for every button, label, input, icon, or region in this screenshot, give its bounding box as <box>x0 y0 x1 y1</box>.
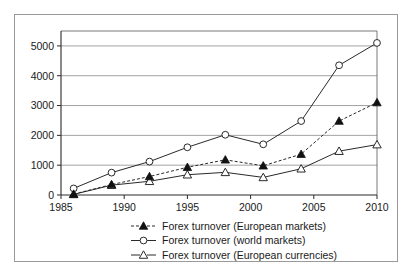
legend-marker-1 <box>140 237 147 244</box>
y-tick-label-3000: 3000 <box>31 99 55 111</box>
legend-label-0: Forex turnover (European markets) <box>162 220 326 232</box>
legend-label-2: Forex turnover (European currencies) <box>162 249 337 261</box>
data-point-1-7 <box>336 62 343 69</box>
legend-entry-2: Forex turnover (European currencies) <box>131 249 337 261</box>
chart-legend: Forex turnover (European markets)Forex t… <box>131 220 337 261</box>
x-tick-label-2005: 2005 <box>302 201 326 213</box>
y-tick-label-4000: 4000 <box>31 70 55 82</box>
x-tick-label-2010: 2010 <box>365 201 389 213</box>
legend-entry-1: Forex turnover (world markets) <box>131 234 306 246</box>
data-point-1-2 <box>146 158 153 165</box>
x-tick-label-2000: 2000 <box>239 201 263 213</box>
y-tick-label-0: 0 <box>48 189 54 201</box>
data-point-0-3 <box>183 163 191 170</box>
data-point-2-4 <box>221 168 229 175</box>
legend-marker-2 <box>139 251 147 258</box>
series-line-1 <box>74 43 377 189</box>
data-point-1-5 <box>260 141 267 148</box>
series-line-0 <box>74 103 377 195</box>
data-point-0-8 <box>373 98 381 105</box>
legend-marker-0 <box>139 222 147 229</box>
data-point-2-8 <box>373 140 381 147</box>
y-axis-ticks: 010002000300040005000 <box>31 40 61 201</box>
x-tick-label-1995: 1995 <box>176 201 200 213</box>
data-point-2-6 <box>297 165 305 172</box>
chart-figure: 010002000300040005000 198519901995200020… <box>0 0 414 278</box>
data-point-1-1 <box>108 169 115 176</box>
x-tick-label-1985: 1985 <box>49 201 73 213</box>
data-point-1-6 <box>298 118 305 125</box>
y-tick-label-5000: 5000 <box>31 40 55 52</box>
series-2 <box>69 140 381 197</box>
legend-entry-0: Forex turnover (European markets) <box>131 220 326 232</box>
series-0 <box>69 98 381 197</box>
data-point-0-4 <box>221 156 229 163</box>
data-point-0-7 <box>335 117 343 124</box>
data-point-1-4 <box>222 131 229 138</box>
y-tick-label-2000: 2000 <box>31 129 55 141</box>
x-tick-label-1990: 1990 <box>113 201 137 213</box>
y-tick-label-1000: 1000 <box>31 159 55 171</box>
x-axis-ticks: 198519901995200020052010 <box>49 195 389 213</box>
line-chart: 010002000300040005000 198519901995200020… <box>0 0 414 278</box>
data-point-1-8 <box>374 40 381 47</box>
data-point-1-3 <box>184 144 191 151</box>
data-series <box>69 40 381 198</box>
gridlines <box>61 46 377 165</box>
legend-label-1: Forex turnover (world markets) <box>162 234 306 246</box>
